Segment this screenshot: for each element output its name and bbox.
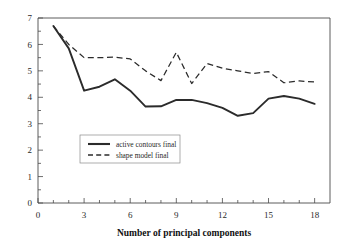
axes-group [38, 18, 330, 203]
y-axis-tick-labels: 01234567 [28, 13, 33, 208]
x-tick-label: 0 [36, 210, 41, 220]
series-line-active-contours-final [53, 26, 314, 116]
legend-label-shape-model-final: shape model final [116, 151, 169, 160]
y-tick-label: 7 [28, 13, 33, 23]
x-axis-title: Number of principal components [117, 228, 251, 238]
x-tick-label: 9 [174, 210, 179, 220]
x-tick-label: 15 [264, 210, 274, 220]
x-tick-label: 12 [218, 210, 227, 220]
x-axis-tick-labels: 0369121518 [36, 210, 320, 220]
y-tick-label: 5 [28, 66, 33, 76]
line-chart: 01234567 0369121518 Number of principal … [0, 0, 347, 249]
series-layer [53, 26, 314, 116]
legend-label-active-contours-final: active contours final [116, 140, 176, 149]
chart-legend: active contours final shape model final [80, 135, 180, 163]
y-tick-label: 4 [28, 92, 33, 102]
x-tick-label: 6 [128, 210, 133, 220]
y-tick-label: 1 [28, 172, 33, 182]
y-tick-label: 3 [28, 119, 33, 129]
y-tick-label: 6 [28, 40, 33, 50]
x-tick-label: 3 [82, 210, 87, 220]
y-tick-label: 2 [28, 145, 33, 155]
series-line-shape-model-final [53, 26, 314, 84]
x-tick-label: 18 [310, 210, 320, 220]
x-axis-major-ticks [38, 198, 315, 203]
chart-figure: 01234567 0369121518 Number of principal … [0, 0, 347, 249]
y-tick-label: 0 [28, 198, 33, 208]
